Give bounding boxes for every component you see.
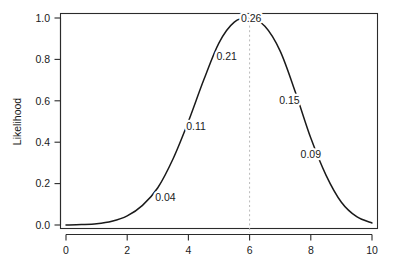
y-tick-label: 0.4 [35, 136, 50, 148]
x-tick-label: 2 [124, 244, 130, 256]
x-tick-label: 6 [247, 244, 253, 256]
data-point-label: 0.26 [241, 12, 262, 24]
plot-box [61, 14, 378, 229]
y-tick-label: 0.6 [35, 95, 50, 107]
likelihood-curve [66, 18, 372, 225]
y-tick-label: 0.2 [35, 177, 50, 189]
y-tick-label: 1.0 [35, 12, 50, 24]
data-point-label: 0.09 [301, 148, 322, 160]
x-tick-label: 4 [185, 244, 191, 256]
y-tick-label: 0.8 [35, 53, 50, 65]
y-axis: 1.0 0.8 0.6 0.4 0.2 0.0 [35, 12, 60, 231]
data-point-label: 0.11 [186, 120, 206, 132]
likelihood-chart-figure: 1.0 0.8 0.6 0.4 0.2 0.0 Likelihood 0 2 4… [0, 0, 395, 262]
data-point-label: 0.21 [216, 50, 237, 62]
y-axis-title: Likelihood [11, 98, 23, 145]
data-point-label: 0.15 [279, 94, 300, 106]
x-tick-label: 0 [63, 244, 69, 256]
y-tick-label: 0.0 [35, 219, 50, 231]
x-axis: 0 2 4 6 8 10 [63, 235, 378, 257]
data-point-label: 0.04 [155, 191, 176, 203]
data-point-label-group: 0.040.040.110.110.210.210.260.260.150.15… [155, 12, 321, 203]
x-tick-label: 8 [308, 244, 314, 256]
chart-canvas: 1.0 0.8 0.6 0.4 0.2 0.0 Likelihood 0 2 4… [0, 0, 395, 262]
x-tick-label: 10 [366, 244, 378, 256]
